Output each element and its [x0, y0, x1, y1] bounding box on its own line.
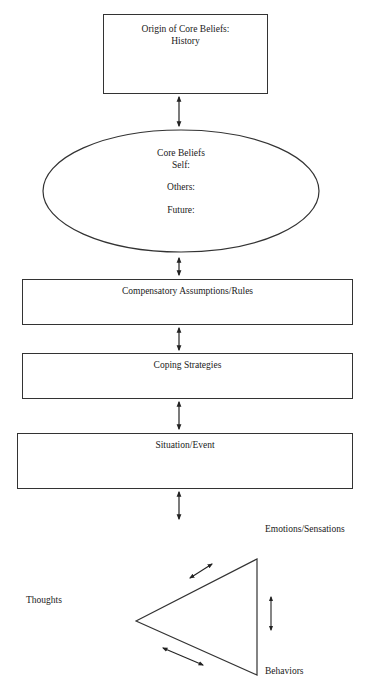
core-belief-future: Future:: [43, 204, 319, 216]
origin-subtitle: History: [103, 35, 268, 47]
behaviors-label: Behaviors: [265, 665, 304, 677]
diagram-lines: [0, 0, 365, 695]
arrow-thoughts-emotions: [190, 564, 212, 578]
arrow-thoughts-behaviors: [163, 648, 203, 665]
core-belief-others: Others:: [43, 181, 319, 193]
origin-title: Origin of Core Beliefs:: [103, 23, 268, 35]
emotions-label: Emotions/Sensations: [265, 523, 345, 535]
coping-title: Coping Strategies: [22, 359, 353, 371]
core-belief-self: Self:: [43, 159, 319, 171]
assumptions-title: Compensatory Assumptions/Rules: [22, 285, 353, 297]
thoughts-emotions-behaviors-triangle: [136, 559, 257, 675]
thoughts-label: Thoughts: [26, 594, 62, 606]
situation-title: Situation/Event: [17, 439, 353, 451]
core-beliefs-title: Core Beliefs: [43, 147, 319, 159]
